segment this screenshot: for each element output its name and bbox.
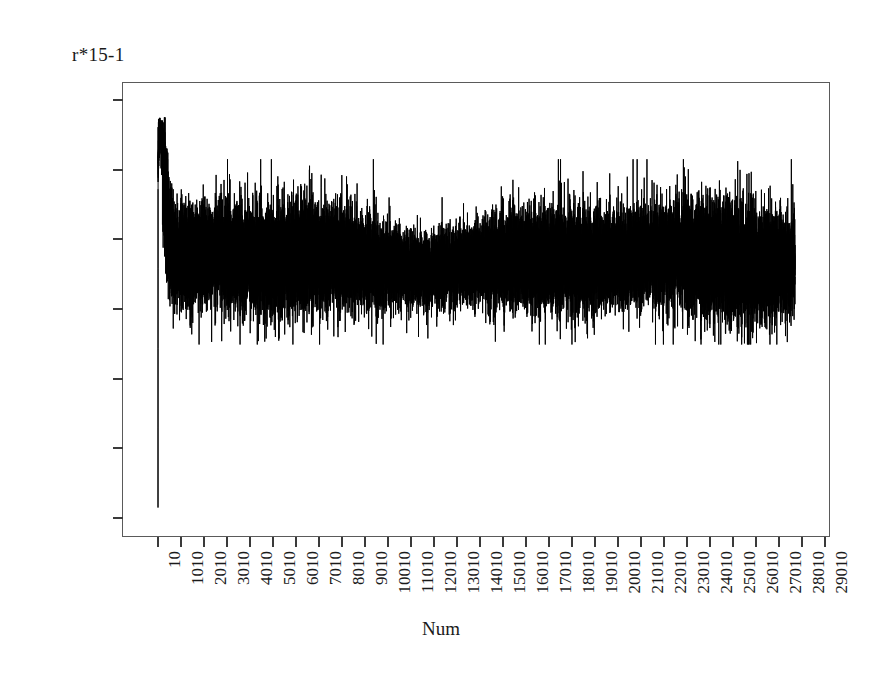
x-axis-tick-mark — [433, 537, 435, 547]
y-axis-tick-mark — [113, 308, 123, 310]
x-axis-tick-mark — [502, 537, 504, 547]
x-axis-tick-mark — [778, 537, 780, 547]
x-axis-tick-mark — [295, 537, 297, 547]
y-axis-tick-mark — [113, 447, 123, 449]
y-axis-tick-mark — [113, 238, 123, 240]
x-axis-title: Num — [0, 618, 882, 640]
x-axis-tick-mark — [801, 537, 803, 547]
x-axis-tick-mark — [203, 537, 205, 547]
x-axis-tick-mark — [755, 537, 757, 547]
x-axis-tick-mark — [410, 537, 412, 547]
x-axis-tick-mark — [709, 537, 711, 547]
x-axis-tick-mark — [617, 537, 619, 547]
x-axis-tick-mark — [364, 537, 366, 547]
y-axis-tick-mark — [113, 517, 123, 519]
x-axis-tick-mark — [456, 537, 458, 547]
x-axis-tick-mark — [479, 537, 481, 547]
x-axis-tick-mark — [341, 537, 343, 547]
x-axis-tick-mark — [249, 537, 251, 547]
y-axis-tick-mark — [113, 169, 123, 171]
x-axis-tick-mark — [525, 537, 527, 547]
y-axis-title: r*15-1 — [72, 44, 124, 66]
x-axis-tick-mark — [387, 537, 389, 547]
y-axis-tick-mark — [113, 378, 123, 380]
x-axis-tick-mark — [732, 537, 734, 547]
x-axis-tick-mark — [640, 537, 642, 547]
series-line-trace — [122, 82, 830, 537]
x-axis-tick-mark — [180, 537, 182, 547]
x-axis-tick-mark — [318, 537, 320, 547]
x-axis-tick-mark — [548, 537, 550, 547]
y-axis-tick-mark — [113, 99, 123, 101]
chart-figure: r*15-1 0.90000.80000.70000.60000.50000.4… — [0, 0, 882, 673]
x-axis-tick-mark — [824, 537, 826, 547]
x-axis-tick-mark — [686, 537, 688, 547]
x-axis-tick-mark — [272, 537, 274, 547]
x-axis-tick-mark — [226, 537, 228, 547]
x-axis-tick-mark — [571, 537, 573, 547]
x-axis-tick-mark — [663, 537, 665, 547]
x-axis-tick-mark — [157, 537, 159, 547]
x-axis-tick-mark — [594, 537, 596, 547]
